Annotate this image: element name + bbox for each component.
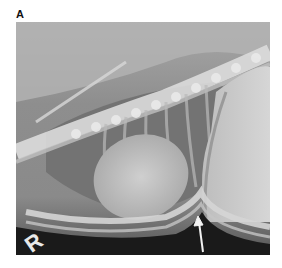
radiograph-image: R: [16, 22, 270, 255]
panel-label: A: [16, 8, 24, 20]
radiograph-drawing: [16, 22, 270, 255]
